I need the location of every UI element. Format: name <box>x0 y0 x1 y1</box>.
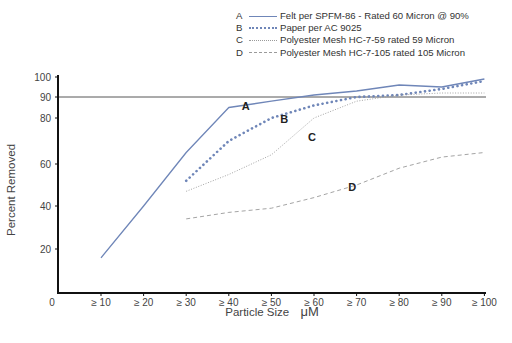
x-tick-label: ≥ 90 <box>432 297 452 308</box>
legend-item-c: C Polyester Mesh HC-7-59 rated 59 Micron <box>236 34 469 46</box>
y-tick-label: 100 <box>34 72 51 83</box>
legend-label: Polyester Mesh HC-7-59 rated 59 Micron <box>280 34 454 46</box>
x-axis-title: Particle Size μM <box>225 304 318 319</box>
legend-key: D <box>236 47 248 59</box>
series-d-line <box>186 153 484 219</box>
series-label-b: B <box>280 113 288 125</box>
legend-key: B <box>236 22 248 34</box>
legend-item-a: A Felt per SPFM-86 - Rated 60 Micron @ 9… <box>236 10 469 22</box>
y-tick-label: 90 <box>40 92 52 103</box>
heavy-dotted-line-swatch-icon <box>249 27 277 29</box>
axes <box>57 75 486 293</box>
series-annotations: ABCD <box>242 100 357 194</box>
legend-key: A <box>236 10 248 22</box>
x-axis-unit: μM <box>300 304 318 319</box>
x-origin-label: 0 <box>49 297 55 308</box>
x-tick-label: ≥ 30 <box>177 297 197 308</box>
x-tick-label: ≥ 70 <box>347 297 367 308</box>
dashed-line-swatch-icon <box>249 52 277 53</box>
legend-label: Polyester Mesh HC-7-105 rated 105 Micron <box>280 47 465 59</box>
series-b-line <box>186 81 484 181</box>
series-a-line <box>101 79 484 258</box>
x-axis-title-text: Particle Size <box>225 306 289 318</box>
x-tick-label: ≥ 20 <box>134 297 154 308</box>
series-label-a: A <box>242 100 250 112</box>
y-axis-title: Percent Removed <box>5 144 17 236</box>
y-tick-label: 40 <box>40 201 52 212</box>
legend-item-b: B Paper per AC 9025 <box>236 22 469 34</box>
legend: A Felt per SPFM-86 - Rated 60 Micron @ 9… <box>236 10 469 59</box>
series-label-c: C <box>308 131 316 143</box>
legend-label: Paper per AC 9025 <box>280 22 362 34</box>
solid-line-swatch-icon <box>249 16 277 17</box>
x-tick-label: ≥ 100 <box>472 297 497 308</box>
x-tick-label: ≥ 80 <box>390 297 410 308</box>
series-layer <box>101 79 484 258</box>
y-axis-ticks: 2040608090100 <box>34 72 58 255</box>
legend-label: Felt per SPFM-86 - Rated 60 Micron @ 90% <box>280 10 469 22</box>
y-tick-label: 80 <box>40 113 52 124</box>
series-label-d: D <box>348 181 356 193</box>
legend-item-d: D Polyester Mesh HC-7-105 rated 105 Micr… <box>236 47 469 59</box>
y-tick-label: 20 <box>40 244 52 255</box>
legend-key: C <box>236 34 248 46</box>
y-tick-label: 60 <box>40 159 52 170</box>
x-tick-label: ≥ 10 <box>91 297 111 308</box>
fine-dotted-line-swatch-icon <box>249 40 277 41</box>
